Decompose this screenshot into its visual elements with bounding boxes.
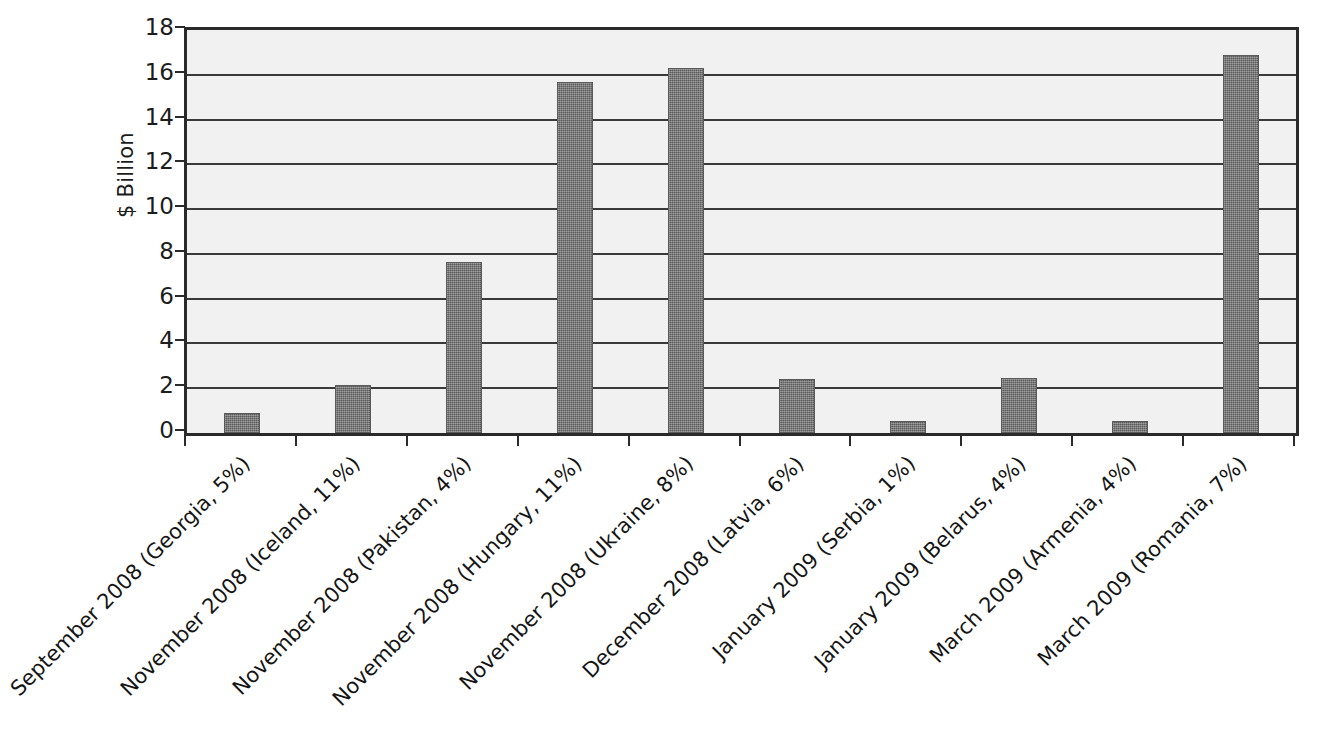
bar-chart: $ Billion 024681012141618 September 2008… [0,0,1317,742]
x-axis-tick-label: March 2009 (Romania, 7%) [1034,453,1252,671]
bar [224,413,260,433]
y-axis-tick-label: 18 [126,16,174,39]
bar [1001,378,1037,433]
x-axis-tick-label: March 2009 (Armenia, 4%) [926,453,1141,668]
y-axis-tick-label: 14 [126,105,174,128]
x-axis-tick-label: September 2008 (Georgia, 5%) [6,452,254,700]
plot-area [184,27,1299,436]
y-axis-tick-label: 4 [126,329,174,352]
bar [890,421,926,433]
y-axis-tick-label: 12 [126,150,174,173]
y-axis-tick-label: 8 [126,239,174,262]
x-axis-tick-label: November 2008 (Pakistan, 4%) [228,452,475,699]
y-axis-tick-label: 16 [126,60,174,83]
x-axis-tick-label: January 2009 (Belarus, 4%) [811,452,1031,672]
bar [1223,55,1259,433]
x-axis-tick-label: December 2008 (Latvia, 6%) [578,453,808,683]
bar [557,82,593,434]
bar [446,262,482,433]
bar [335,385,371,433]
bar [779,379,815,433]
x-axis-tick-label: November 2008 (Hungary, 11%) [329,452,587,710]
x-axis-tick-label: November 2008 (Ukraine, 8%) [455,452,697,694]
y-axis-tick-label: 0 [126,419,174,442]
x-axis-tick-label: November 2008 (Iceland, 11%) [117,452,365,700]
y-axis-tick-label: 6 [126,284,174,307]
bar [1112,421,1148,433]
x-axis-tick-label: January 2009 (Serbia, 1%) [708,452,919,663]
bars [187,30,1296,433]
y-axis-tick-label: 2 [126,374,174,397]
bar [668,68,704,433]
y-axis-tick-label: 10 [126,195,174,218]
x-axis-tick-labels: September 2008 (Georgia, 5%)November 200… [0,440,1317,742]
